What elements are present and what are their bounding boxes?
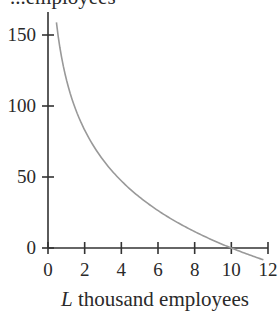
x-axis-variable: L (60, 287, 73, 311)
y-tick-label: 0 (27, 237, 37, 258)
x-tick-label: 2 (80, 259, 90, 280)
x-tick-label: 4 (117, 259, 127, 280)
x-axis: 024681012 (43, 242, 277, 280)
x-tick-label: 6 (153, 259, 163, 280)
x-tick-label: 8 (190, 259, 200, 280)
x-tick-label: 12 (259, 259, 278, 280)
y-tick-label: 150 (8, 24, 37, 45)
x-tick-label: 10 (222, 259, 241, 280)
chart: ...employees 050100150 024681012 L thous… (0, 0, 278, 326)
x-tick-label: 0 (43, 259, 53, 280)
y-tick-label: 100 (8, 95, 37, 116)
top-label-partial: ...employees (10, 0, 116, 9)
y-axis: 050100150 (8, 12, 55, 258)
x-axis-title: L thousand employees (60, 287, 249, 311)
y-tick-label: 50 (17, 166, 36, 187)
data-curve (56, 22, 263, 259)
x-axis-unit: thousand employees (73, 287, 249, 311)
